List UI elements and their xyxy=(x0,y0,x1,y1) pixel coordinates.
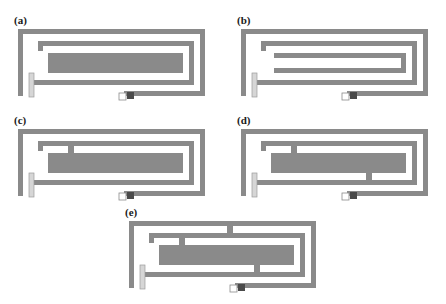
panel-b-artwork xyxy=(223,0,446,112)
feed-pad-dark-a xyxy=(127,92,134,99)
feed-pad-light-b xyxy=(342,93,349,100)
feed-pad-dark-d xyxy=(350,192,357,199)
shorting-stub-d-2 xyxy=(366,168,372,180)
panel-c-artwork xyxy=(0,100,223,204)
shorting-stub-e-2 xyxy=(254,260,260,272)
feed-port-e xyxy=(140,265,145,289)
shorting-stub-c-1 xyxy=(68,146,74,158)
feed-pad-light-d xyxy=(342,193,349,200)
antenna-a-svg xyxy=(0,0,223,112)
shorting-stub-e-1 xyxy=(179,238,185,250)
inner-bar-d xyxy=(271,158,401,168)
panel-d-artwork xyxy=(223,100,446,204)
antenna-e-svg xyxy=(111,192,334,304)
inner-bar-e xyxy=(159,250,289,260)
outer-ring-b xyxy=(241,29,428,96)
antenna-b-svg xyxy=(223,0,446,112)
feed-port-a xyxy=(29,73,34,97)
panel-a: (a) xyxy=(0,0,223,112)
panel-b: (b) xyxy=(223,0,446,112)
shorting-stub-d-1 xyxy=(291,146,297,158)
feed-pad-light-a xyxy=(119,93,126,100)
second-ring-b xyxy=(254,41,417,85)
feed-pad-dark-e xyxy=(238,284,245,291)
feed-port-b xyxy=(252,73,257,97)
antenna-c-svg xyxy=(0,100,223,204)
inner-bar-c xyxy=(48,158,178,168)
inner-bar-a xyxy=(48,58,178,68)
panel-a-artwork xyxy=(0,0,223,112)
inner-arm-b xyxy=(274,53,406,73)
feed-pad-dark-b xyxy=(350,92,357,99)
feed-pad-light-e xyxy=(230,285,237,292)
feed-port-c xyxy=(29,173,34,197)
panel-d: (d) xyxy=(223,100,446,204)
panel-e: (e) xyxy=(111,192,334,304)
figure-canvas: (a) (b) xyxy=(0,0,446,304)
panel-c: (c) xyxy=(0,100,223,204)
antenna-d-svg xyxy=(223,100,446,204)
panel-e-artwork xyxy=(111,192,334,304)
